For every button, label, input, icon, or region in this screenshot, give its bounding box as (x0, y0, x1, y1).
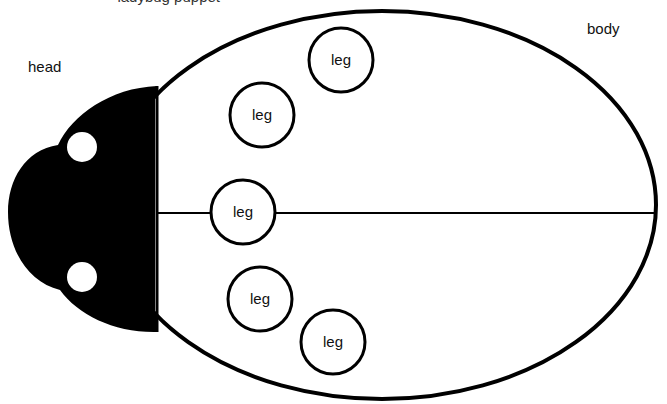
leg-circle: leg (211, 180, 275, 244)
head-shape (8, 86, 157, 332)
ladybug-drawing: leglegleglegleg (0, 0, 667, 404)
leg-label: leg (331, 51, 351, 68)
ladybug-diagram: ladybug puppet leglegleglegleg head body (0, 0, 667, 404)
leg-circle: leg (309, 28, 373, 92)
leg-label: leg (233, 203, 253, 220)
leg-circle: leg (301, 310, 365, 374)
eye-top (67, 132, 97, 162)
leg-label: leg (323, 333, 343, 350)
body-shape (108, 11, 656, 399)
leg-label: leg (252, 106, 272, 123)
leg-label: leg (250, 290, 270, 307)
leg-circle: leg (230, 83, 294, 147)
leg-circle: leg (228, 267, 292, 331)
head-label: head (28, 58, 61, 75)
body-label: body (587, 20, 620, 37)
eye-bottom (67, 262, 97, 292)
